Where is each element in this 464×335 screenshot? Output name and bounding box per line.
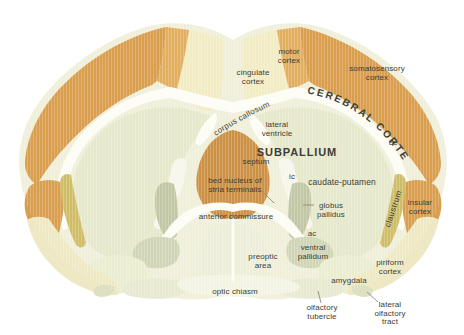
- label-internal-capsule: ic: [289, 173, 295, 182]
- label-insular-cortex: insularcortex: [408, 199, 432, 216]
- label-globus-pallidus: globuspallidus: [317, 202, 345, 219]
- brain-coronal-diagram: corpus callosum CEREBRAL CORTEX motorcor…: [0, 0, 464, 335]
- label-olfactory-tubercle: olfactorytubercle: [306, 304, 337, 321]
- label-cingulate-cortex: cingulatecortex: [237, 69, 270, 86]
- label-subpallium: SUBPALLIUM: [257, 148, 337, 157]
- label-septum: septum: [243, 158, 270, 167]
- label-preoptic-area: preopticarea: [248, 253, 277, 270]
- label-bed-nucleus: bed nucleus ofstria terminalis: [208, 177, 261, 194]
- label-external-capsule: ec: [389, 139, 398, 148]
- label-somatosensory-cortex: somatosensorycortex: [349, 65, 405, 82]
- label-lateral-ventricle: lateralventricle: [262, 121, 293, 138]
- label-ac: ac: [308, 230, 317, 239]
- label-caudate-putamen: caudate-putamen: [308, 178, 376, 187]
- label-amygdala: amygdala: [331, 277, 367, 286]
- brain-section-art: corpus callosum CEREBRAL CORTEX: [0, 0, 464, 335]
- label-ventral-pallidum: ventralpallidum: [298, 244, 329, 261]
- label-anterior-commissure: anterior commissure: [199, 213, 273, 222]
- label-lateral-olfactory-tract: lateralolfactorytract: [374, 301, 405, 327]
- label-piriform-cortex: piriformcortex: [376, 259, 403, 276]
- label-optic-chiasm: optic chiasm: [212, 288, 258, 297]
- label-motor-cortex: motorcortex: [278, 48, 300, 65]
